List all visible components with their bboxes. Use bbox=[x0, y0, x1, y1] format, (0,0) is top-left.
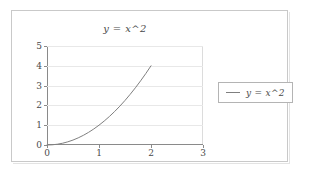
chart-legend[interactable]: y = x^2 bbox=[218, 82, 293, 103]
legend-line-swatch-icon bbox=[226, 92, 240, 93]
y-tick-label: 0 bbox=[36, 140, 42, 150]
x-tick-label: 2 bbox=[148, 148, 154, 158]
y-tick-label: 3 bbox=[36, 81, 42, 91]
y-tick-label: 5 bbox=[36, 41, 42, 51]
plot-area: 012345 0123 bbox=[47, 46, 203, 145]
x-tick-label: 1 bbox=[96, 148, 102, 158]
legend-entry-label: y = x^2 bbox=[246, 88, 285, 98]
series-line-y-equals-x-squared bbox=[47, 46, 203, 145]
y-tick-label: 4 bbox=[36, 61, 42, 71]
x-tick-label: 0 bbox=[44, 148, 50, 158]
y-tick-label: 1 bbox=[36, 120, 42, 130]
figure-canvas: y = x^2 012345 0123 y = x^2 bbox=[0, 0, 311, 180]
y-tick-label: 2 bbox=[36, 100, 42, 110]
x-tick-label: 3 bbox=[200, 148, 206, 158]
chart-title: y = x^2 bbox=[47, 23, 203, 34]
